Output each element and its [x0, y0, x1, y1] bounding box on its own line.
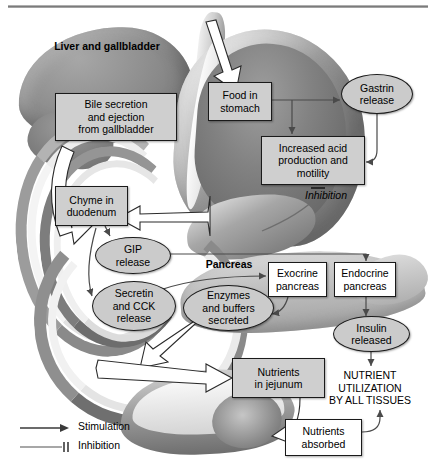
node-gastrin-line-1: Gastrin: [360, 82, 394, 95]
node-jejunum-line-1: Nutrients: [255, 366, 303, 379]
node-chyme-line-2: duodenum: [67, 206, 117, 219]
node-enzymes-line-2: and buffers: [202, 302, 254, 315]
legend: Stimulation Inhibition: [18, 416, 188, 454]
node-chyme-line-1: Chyme in: [67, 194, 117, 207]
node-bile-secretion-line-1: Bile secretion: [78, 98, 153, 111]
top-divider-rule: [8, 5, 428, 8]
node-exocrine-line-1: Exocrine: [276, 267, 319, 280]
node-secretin-line-1: Secretin: [113, 287, 156, 300]
connector-gastrin-to-acid: [366, 113, 377, 162]
node-gip-line-2: release: [116, 256, 150, 269]
node-gip-line-1: GIP: [116, 243, 150, 256]
node-enzymes-and-buffers-secreted[interactable]: Enzymes and buffers secreted: [183, 285, 274, 331]
node-exocrine-pancreas[interactable]: Exocrine pancreas: [268, 262, 327, 297]
node-endocrine-line-2: pancreas: [341, 280, 388, 293]
legend-item-stimulation: Stimulation: [18, 416, 188, 435]
node-insulin-line-2: released: [351, 334, 391, 347]
node-gip-release[interactable]: GIP release: [95, 237, 171, 274]
node-enzymes-line-1: Enzymes: [202, 289, 254, 302]
node-absorbed-line-2: absorbed: [302, 438, 346, 451]
node-increased-acid-production[interactable]: Increased acid production and motility: [261, 136, 365, 185]
node-endocrine-line-1: Endocrine: [341, 267, 388, 280]
node-nutrient-utilization: NUTRIENT UTILIZATION BY ALL TISSUES: [306, 369, 434, 407]
legend-label-stimulation: Stimulation: [78, 420, 130, 432]
diagram-canvas: Liver and gallbladder Pancreas Inhibitio…: [0, 0, 434, 474]
node-insulin-line-1: Insulin: [351, 322, 391, 335]
legend-label-inhibition: Inhibition: [78, 439, 120, 451]
node-chyme-in-duodenum[interactable]: Chyme in duodenum: [55, 186, 128, 226]
node-endocrine-pancreas[interactable]: Endocrine pancreas: [334, 262, 396, 297]
label-liver-and-gallbladder: Liver and gallbladder: [52, 40, 162, 53]
node-exocrine-line-2: pancreas: [276, 280, 319, 293]
node-jejunum-line-2: in jejunum: [255, 378, 303, 391]
node-gastrin-line-2: release: [360, 94, 394, 107]
connector-absorbed-to-utilization: [362, 410, 380, 432]
node-utilization-line-1: NUTRIENT: [306, 369, 434, 382]
node-acid-line-1: Increased acid: [278, 142, 347, 155]
legend-item-inhibition: Inhibition: [18, 435, 188, 454]
node-insulin-released[interactable]: Insulin released: [333, 316, 410, 352]
node-bile-secretion[interactable]: Bile secretion and ejection from gallbla…: [55, 93, 177, 141]
inhibition-tee-icon: [18, 439, 70, 451]
node-secretin-line-3: release: [113, 312, 156, 325]
label-inhibition-marker: Inhibition: [305, 189, 347, 202]
node-food-line-1: Food in: [220, 89, 260, 102]
node-absorbed-line-1: Nutrients: [302, 425, 346, 438]
node-secretin-and-cck-release[interactable]: Secretin and CCK release: [92, 281, 176, 331]
node-utilization-line-3: BY ALL TISSUES: [306, 394, 434, 407]
node-acid-line-3: motility: [278, 167, 347, 180]
node-enzymes-line-3: secreted: [202, 314, 254, 327]
node-utilization-line-2: UTILIZATION: [306, 382, 434, 395]
node-acid-line-2: production and: [278, 154, 347, 167]
node-secretin-line-2: and CCK: [113, 300, 156, 313]
node-gastrin-release[interactable]: Gastrin release: [341, 74, 413, 114]
node-food-line-2: stomach: [220, 102, 260, 115]
label-pancreas: Pancreas: [192, 258, 266, 271]
stimulation-arrow-icon: [18, 420, 70, 432]
node-bile-secretion-line-2: and ejection: [78, 111, 153, 124]
node-nutrients-absorbed[interactable]: Nutrients absorbed: [285, 419, 362, 456]
node-bile-secretion-line-3: from gallbladder: [78, 123, 153, 136]
node-food-in-stomach[interactable]: Food in stomach: [208, 82, 272, 121]
